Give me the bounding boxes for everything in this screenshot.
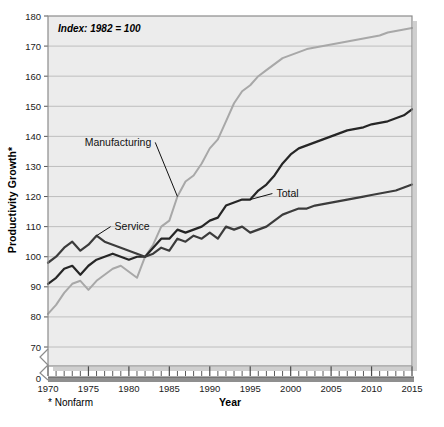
svg-text:140: 140 <box>25 131 41 142</box>
y-axis-break-symbol <box>40 349 48 380</box>
series-label-total: Total <box>276 187 298 199</box>
svg-text:100: 100 <box>25 251 41 262</box>
svg-text:130: 130 <box>25 161 41 172</box>
svg-text:1995: 1995 <box>240 383 261 394</box>
svg-text:90: 90 <box>30 281 41 292</box>
index-annotation: Index: 1982 = 100 <box>58 23 141 34</box>
productivity-growth-chart: 7080901001101201301401501601701800 19701… <box>0 0 444 427</box>
series-label-service: Service <box>115 220 150 232</box>
y-axis-title: Productivity Growth* <box>6 146 18 253</box>
svg-text:70: 70 <box>30 342 41 353</box>
chart-canvas: 7080901001101201301401501601701800 19701… <box>0 0 444 427</box>
svg-text:180: 180 <box>25 11 41 22</box>
svg-text:110: 110 <box>26 221 41 232</box>
x-axis-title: Year <box>219 396 241 408</box>
svg-text:150: 150 <box>25 101 41 112</box>
x-axis-baseline <box>48 377 414 382</box>
svg-text:1970: 1970 <box>37 383 58 394</box>
svg-text:170: 170 <box>25 41 41 52</box>
y-axis-ticks: 7080901001101201301401501601701800 <box>25 11 48 384</box>
svg-text:0: 0 <box>36 373 41 384</box>
footnote: * Nonfarm <box>48 397 93 408</box>
svg-text:1980: 1980 <box>118 383 139 394</box>
svg-text:2000: 2000 <box>280 383 301 394</box>
series-label-manufacturing: Manufacturing <box>85 136 152 148</box>
svg-text:120: 120 <box>25 191 41 202</box>
svg-text:1990: 1990 <box>199 383 220 394</box>
svg-text:160: 160 <box>25 71 41 82</box>
svg-text:2010: 2010 <box>361 383 382 394</box>
plot-background <box>48 16 412 366</box>
svg-text:1975: 1975 <box>78 383 99 394</box>
svg-text:80: 80 <box>30 311 41 322</box>
svg-text:1985: 1985 <box>159 383 180 394</box>
svg-text:2015: 2015 <box>401 383 422 394</box>
svg-text:2005: 2005 <box>321 383 342 394</box>
